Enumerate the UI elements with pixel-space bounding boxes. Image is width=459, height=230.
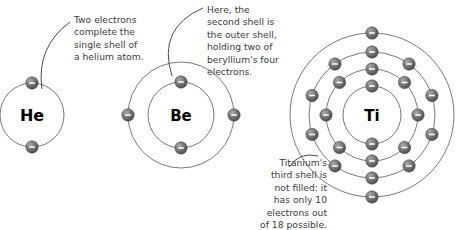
electron-minus-sign <box>402 82 408 84</box>
electron-beryllium-s2-1 <box>122 109 134 121</box>
electron-minus-sign <box>369 196 375 198</box>
element-symbol-titanium: Ti <box>364 107 379 125</box>
electron-minus-sign <box>337 147 343 149</box>
electron-titanium-s1-1 <box>366 80 378 92</box>
electron-titanium-s3-3 <box>426 89 438 101</box>
electron-minus-sign <box>402 147 408 149</box>
element-symbol-beryllium: Be <box>170 107 192 125</box>
electron-minus-sign <box>369 160 375 162</box>
electron-helium-s1-2 <box>26 141 38 153</box>
electron-minus-sign <box>369 68 375 70</box>
electron-titanium-s3-9 <box>306 89 318 101</box>
electron-titanium-s4-2 <box>366 191 378 203</box>
electron-minus-sign <box>429 134 435 136</box>
electron-minus-sign <box>29 146 35 148</box>
electron-titanium-s4-1 <box>366 27 378 39</box>
atom-shell-diagram-figure: HeBeTi Two electrons complete the single… <box>0 0 459 230</box>
electron-helium-s1-1 <box>26 77 38 89</box>
electron-minus-sign <box>369 32 375 34</box>
electron-titanium-s2-6 <box>333 141 345 153</box>
electron-minus-sign <box>178 81 184 83</box>
electron-minus-sign <box>178 147 184 149</box>
electron-titanium-s3-2 <box>403 58 415 70</box>
electron-titanium-s3-5 <box>403 160 415 172</box>
electron-titanium-s3-8 <box>306 128 318 140</box>
electron-minus-sign <box>337 82 343 84</box>
electron-titanium-s2-5 <box>366 155 378 167</box>
electron-titanium-s3-10 <box>329 58 341 70</box>
electron-titanium-s2-1 <box>366 63 378 75</box>
leader-line-helium <box>41 22 70 89</box>
electron-titanium-s3-4 <box>426 128 438 140</box>
caption-helium: Two electrons complete the single shell … <box>74 14 158 64</box>
electron-minus-sign <box>309 134 315 136</box>
electron-titanium-s3-1 <box>366 46 378 58</box>
electron-titanium-s2-8 <box>333 76 345 88</box>
electron-minus-sign <box>323 114 329 116</box>
electron-titanium-s2-7 <box>320 109 332 121</box>
element-symbol-helium: He <box>20 106 44 125</box>
electron-titanium-s2-3 <box>412 109 424 121</box>
electron-minus-sign <box>125 114 131 116</box>
electron-minus-sign <box>29 82 35 84</box>
electron-minus-sign <box>369 177 375 179</box>
caption-titanium: Titanium's third shell is not filled: it… <box>219 157 327 230</box>
electron-minus-sign <box>406 63 412 65</box>
electron-minus-sign <box>369 51 375 53</box>
electron-titanium-s2-2 <box>398 76 410 88</box>
electron-titanium-s2-4 <box>398 141 410 153</box>
electron-titanium-s3-7 <box>329 160 341 172</box>
caption-beryllium: Here, the second shell is the outer shel… <box>207 4 293 78</box>
electron-minus-sign <box>429 95 435 97</box>
electron-minus-sign <box>309 95 315 97</box>
electron-minus-sign <box>332 165 338 167</box>
electron-titanium-s3-6 <box>366 172 378 184</box>
electron-minus-sign <box>231 114 237 116</box>
electron-minus-sign <box>369 85 375 87</box>
electron-minus-sign <box>332 63 338 65</box>
electron-beryllium-s2-2 <box>228 109 240 121</box>
atom-helium: He <box>0 77 64 153</box>
electron-beryllium-s1-2 <box>175 142 187 154</box>
leader-line-beryllium <box>168 8 203 76</box>
electron-minus-sign <box>406 165 412 167</box>
electron-minus-sign <box>369 143 375 145</box>
electron-beryllium-s1-1 <box>175 76 187 88</box>
electron-minus-sign <box>415 114 421 116</box>
electron-titanium-s1-2 <box>366 138 378 150</box>
